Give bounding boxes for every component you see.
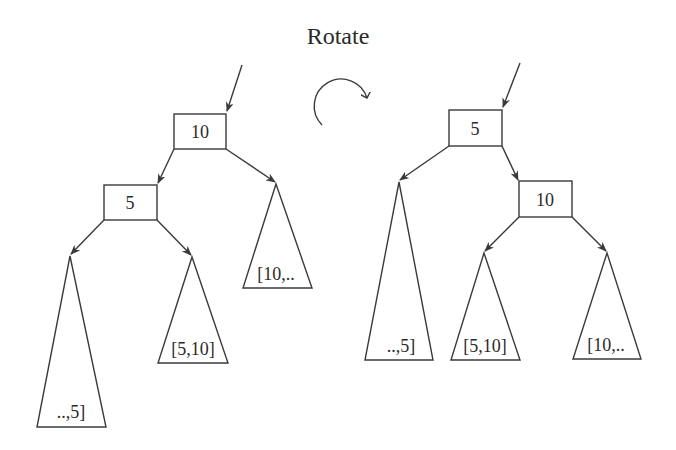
subtree-label: [10,.. (257, 264, 295, 284)
node-label: 5 (126, 193, 135, 213)
clockwise-arrow-icon (314, 79, 367, 125)
incoming-pointer-arrow (503, 63, 520, 107)
subtree-label: ..,5] (57, 402, 86, 422)
subtree-triangle (365, 182, 433, 360)
edge-arrow (572, 217, 606, 251)
rotation-diagram: Rotate 10 5 ..,5] [5,10] [10,.. (0, 0, 676, 450)
node-label: 5 (471, 119, 480, 139)
tree-before: 10 5 ..,5] [5,10] [10,.. (37, 65, 312, 427)
subtree-5-to-10: [5,10] (158, 257, 228, 363)
node-root: 5 (449, 110, 502, 146)
subtree-label: [5,10] (171, 339, 215, 359)
subtree-5-to-10: [5,10] (451, 253, 520, 360)
subtree-greater-than-10: [10,.. (243, 184, 312, 288)
node-right-child: 10 (519, 181, 572, 217)
edge-arrow (157, 220, 191, 255)
subtree-label: ..,5] (387, 336, 416, 356)
subtree-label: [5,10] (463, 336, 507, 356)
node-root: 10 (174, 114, 226, 149)
node-label: 10 (191, 122, 209, 142)
subtree-greater-than-10: [10,.. (573, 253, 641, 359)
edge-arrow (71, 220, 104, 254)
subtree-less-than-5: ..,5] (37, 256, 106, 427)
edge-arrow (502, 146, 518, 180)
subtree-less-than-5: ..,5] (365, 182, 433, 360)
tree-after: 5 10 ..,5] [5,10] [10,.. (365, 63, 641, 360)
edge-arrow (400, 146, 449, 180)
node-label: 10 (536, 190, 554, 210)
edge-arrow (226, 149, 275, 182)
edge-arrow (158, 149, 174, 183)
incoming-pointer-arrow (227, 65, 242, 111)
edge-arrow (485, 217, 519, 251)
diagram-title: Rotate (307, 23, 370, 49)
subtree-label: [10,.. (587, 335, 625, 355)
node-left-child: 5 (104, 185, 157, 220)
